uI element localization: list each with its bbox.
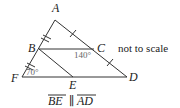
label-B: B xyxy=(28,41,36,55)
angle-F-label: 70° xyxy=(26,67,39,77)
label-C: C xyxy=(97,41,106,55)
label-D: D xyxy=(128,70,138,84)
caption-AD: AD xyxy=(76,94,93,108)
angle-C-label: 140° xyxy=(74,50,92,60)
segment-BE xyxy=(39,49,73,77)
label-F: F xyxy=(10,71,19,85)
label-E: E xyxy=(68,78,77,92)
parallel-caption: BE ∥ AD xyxy=(48,94,96,108)
label-A: A xyxy=(51,1,60,15)
caption-parallel-symbol: ∥ xyxy=(69,94,75,108)
geometry-figure: A B C D E F 70° 140° not to scale BE ∥ A… xyxy=(0,0,180,108)
caption-BE: BE xyxy=(48,94,63,108)
not-to-scale-note: not to scale xyxy=(118,42,168,54)
